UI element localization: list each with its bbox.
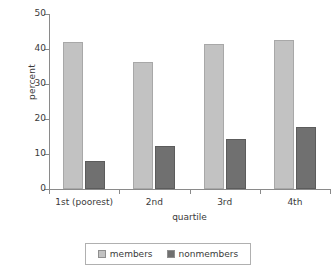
legend-label: nonmembers: [179, 249, 239, 259]
legend-swatch-icon: [98, 250, 106, 258]
x-axis-tick-label: 4th: [250, 197, 335, 208]
bar-members-4th: [274, 40, 294, 189]
y-axis-tick-label: 40: [6, 44, 46, 53]
y-axis-tick-label: 30: [6, 79, 46, 88]
x-axis-tick: [190, 189, 191, 194]
legend-swatch-icon: [167, 250, 175, 258]
y-axis-tick-label: 10: [6, 149, 46, 158]
bar-members-2nd: [133, 62, 153, 189]
y-axis-tick-label: 50: [6, 9, 46, 18]
bar-nonmembers-2nd: [155, 146, 175, 189]
y-axis-tick-label: 20: [6, 114, 46, 123]
x-axis-tick: [260, 189, 261, 194]
y-axis-tick-label: 0: [6, 184, 46, 193]
x-axis-tick: [49, 189, 50, 194]
plot-area: [0, 0, 335, 279]
bar-nonmembers-1st-poorest-: [85, 161, 105, 189]
x-axis-tick: [330, 189, 331, 194]
x-axis-tick: [119, 189, 120, 194]
legend-entry-members: members: [98, 249, 153, 259]
bar-nonmembers-3rd: [226, 139, 246, 189]
chart-legend: membersnonmembers: [85, 243, 251, 265]
bar-chart: percent 01020304050 1st (poorest)2nd3rd4…: [0, 0, 335, 279]
bar-nonmembers-4th: [296, 127, 316, 189]
y-axis-line: [49, 14, 50, 190]
x-axis-title: quartile: [49, 212, 330, 222]
legend-entry-nonmembers: nonmembers: [167, 249, 239, 259]
legend-label: members: [110, 249, 153, 259]
bar-members-1st-poorest-: [63, 42, 83, 189]
bar-members-3rd: [204, 44, 224, 189]
